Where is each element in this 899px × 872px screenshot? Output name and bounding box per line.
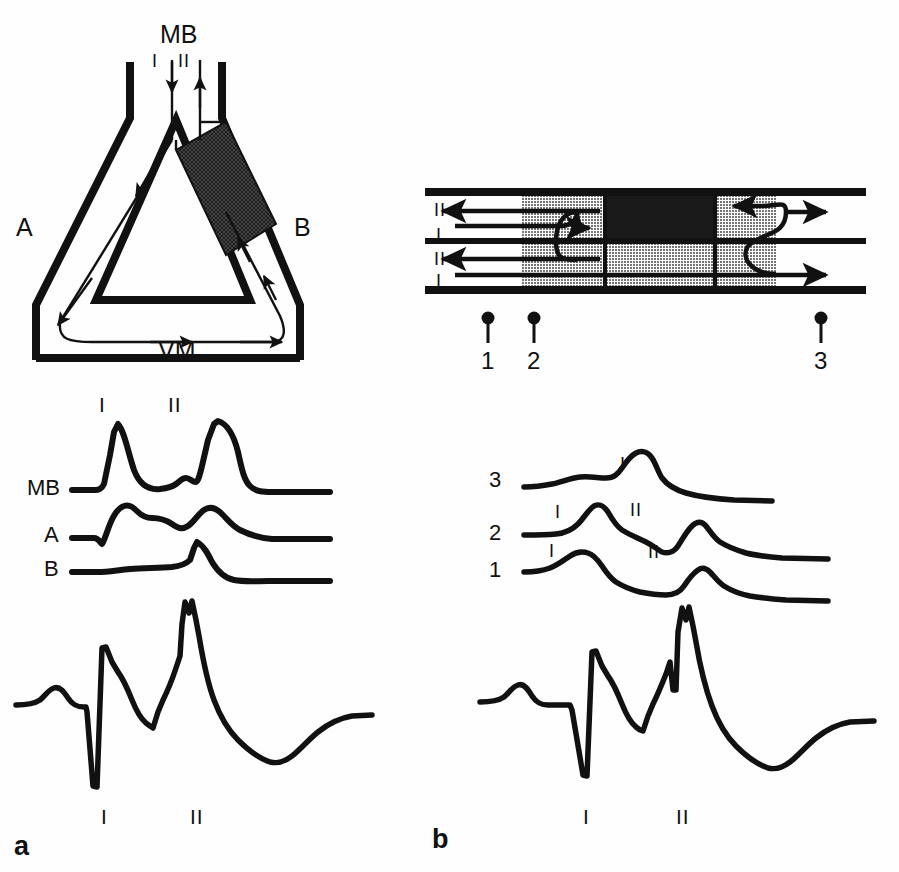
traces-b-row3-marker-i: I bbox=[620, 455, 626, 473]
panel-b-ecg-graphic bbox=[480, 607, 874, 776]
schematic-a-label-mb: MB bbox=[160, 22, 198, 47]
traces-b-row-label-1: 1 bbox=[489, 559, 501, 581]
schematic-b-left-label-1: I bbox=[436, 226, 442, 244]
traces-a-row-label-mb: MB bbox=[27, 477, 60, 499]
panel-b-schematic-graphic bbox=[425, 192, 866, 343]
schematic-a-label-b: B bbox=[294, 215, 311, 240]
site-marker-pin-1 bbox=[482, 312, 495, 344]
site-marker-pin-3 bbox=[815, 312, 828, 344]
panel-b-traces-graphic bbox=[524, 452, 828, 601]
schematic-a-label-a: A bbox=[16, 215, 33, 240]
site-marker-label-3: 3 bbox=[814, 349, 827, 373]
ecg-b-marker-i: I bbox=[583, 806, 590, 827]
traces-b-row2-marker-i: I bbox=[555, 503, 561, 521]
traces-a-marker-i: I bbox=[99, 394, 106, 415]
panel-a-traces-graphic bbox=[72, 421, 330, 581]
panel-label-b: b bbox=[432, 826, 449, 853]
site-marker-pin-2 bbox=[528, 312, 541, 344]
traces-b-row-label-3: 3 bbox=[489, 469, 501, 491]
traces-a-row-label-b: B bbox=[44, 558, 59, 580]
panel-label-a: a bbox=[14, 833, 29, 860]
ecg-a-marker-i: I bbox=[101, 806, 108, 827]
traces-b-row-label-2: 2 bbox=[489, 522, 501, 544]
schematic-b-left-label-0: II bbox=[434, 201, 446, 219]
ecg-a-marker-ii: II bbox=[190, 806, 204, 827]
site-marker-label-2: 2 bbox=[527, 349, 540, 373]
schematic-b-left-label-2: II bbox=[434, 250, 446, 268]
ecg-b-marker-ii: II bbox=[676, 806, 690, 827]
schematic-b-left-label-3: I bbox=[436, 272, 442, 290]
traces-a-row-label-a: A bbox=[44, 524, 59, 546]
traces-a-marker-ii: II bbox=[168, 394, 182, 415]
traces-b-row1-marker-ii: II bbox=[648, 543, 660, 561]
figure-root: MB I II A B VM I II MB A B I II a II I I… bbox=[0, 0, 899, 872]
site-marker-label-1: 1 bbox=[481, 349, 494, 373]
panel-a-ecg-graphic bbox=[16, 601, 372, 787]
schematic-a-beat-label-i: I bbox=[152, 52, 158, 70]
figure-graphics bbox=[0, 0, 899, 872]
schematic-a-beat-label-ii: II bbox=[178, 52, 190, 70]
schematic-a-label-vm: VM bbox=[158, 338, 196, 363]
traces-b-row2-marker-ii: II bbox=[630, 501, 642, 519]
panel-a-schematic-graphic bbox=[36, 60, 300, 360]
traces-b-row1-marker-i: I bbox=[549, 542, 555, 560]
